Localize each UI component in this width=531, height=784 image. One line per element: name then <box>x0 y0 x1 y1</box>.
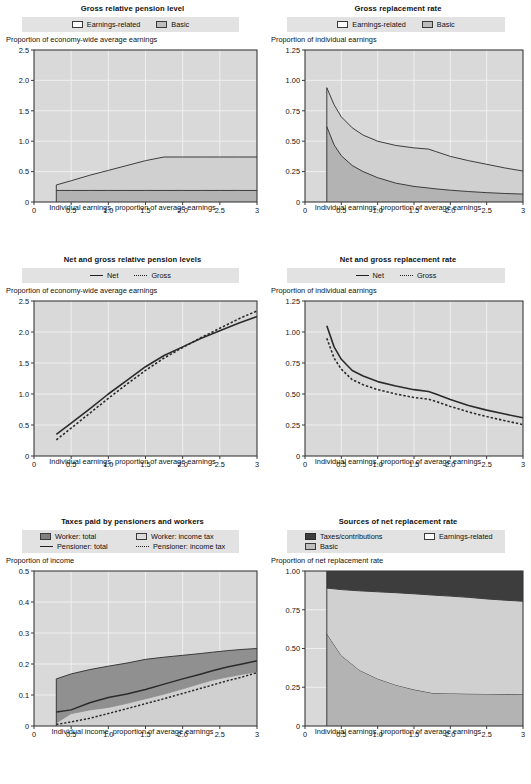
svg-text:1.25: 1.25 <box>286 46 300 55</box>
legend-label: Basic <box>171 20 189 29</box>
svg-text:0.75: 0.75 <box>286 107 300 116</box>
y-axis-label: Proportion of income <box>6 556 265 565</box>
legend-swatch-icon <box>72 21 83 28</box>
y-axis-label: Proportion of individual earnings <box>271 286 531 295</box>
chart-legend: Earnings-related Basic <box>287 17 505 32</box>
legend-item: Gross <box>400 271 436 280</box>
svg-text:0.25: 0.25 <box>286 167 300 176</box>
plot-area: 00.51.01.52.02.5300.250.500.751.00 Indiv… <box>265 566 531 744</box>
chart-canvas: 00.51.01.52.02.5300.10.20.30.40.5 <box>0 566 265 744</box>
chart-grid: Gross relative pension level Earnings-re… <box>0 0 531 784</box>
svg-text:0.75: 0.75 <box>286 606 300 615</box>
legend-label: Pensioner: income tax <box>153 542 225 551</box>
legend-label: Net <box>107 271 118 280</box>
legend-label: Net <box>373 271 384 280</box>
y-axis-label: Proportion of net replacement rate <box>271 556 531 565</box>
legend-label: Gross <box>151 271 170 280</box>
legend-item: Pensioner: total <box>40 542 122 551</box>
chart-title: Sources of net replacement rate <box>265 513 531 527</box>
panel-gross-relative-pension-level: Gross relative pension level Earnings-re… <box>0 0 265 251</box>
y-axis-label: Proportion of economy-wide average earni… <box>6 35 265 44</box>
svg-text:2.5: 2.5 <box>19 46 29 55</box>
legend-label: Taxes/contributions <box>320 532 382 541</box>
legend-item: Worker: income tax <box>136 532 214 541</box>
legend-item: Net <box>90 271 118 280</box>
legend-label: Earnings-related <box>439 532 493 541</box>
legend-item: Gross <box>134 271 170 280</box>
chart-canvas: 00.51.01.52.02.5300.250.500.751.001.25 <box>265 296 531 474</box>
legend-label: Gross <box>417 271 436 280</box>
chart-title: Gross replacement rate <box>265 0 531 14</box>
svg-text:0.5: 0.5 <box>19 567 29 576</box>
chart-title: Net and gross replacement rate <box>265 251 531 265</box>
svg-text:0.25: 0.25 <box>286 683 300 692</box>
x-axis-label: Individual earnings, proportion of avera… <box>265 457 531 466</box>
legend-line-dotted-icon <box>136 546 149 547</box>
legend-label: Basic <box>320 542 338 551</box>
svg-text:0.5: 0.5 <box>19 421 29 430</box>
svg-text:1.00: 1.00 <box>286 567 300 576</box>
legend-item: Earnings-related <box>424 532 493 541</box>
legend-swatch-icon <box>40 533 51 540</box>
panel-net-and-gross-relative-pension-levels: Net and gross relative pension levels Ne… <box>0 251 265 513</box>
svg-text:0.4: 0.4 <box>19 598 29 607</box>
figure-sheet: Gross relative pension level Earnings-re… <box>0 0 531 784</box>
svg-text:0.2: 0.2 <box>19 660 29 669</box>
svg-text:0.1: 0.1 <box>19 691 29 700</box>
legend-swatch-icon <box>136 533 147 540</box>
legend-swatch-icon <box>337 21 348 28</box>
svg-text:2.0: 2.0 <box>19 76 29 85</box>
legend-line-solid-icon <box>40 546 53 547</box>
svg-text:0.50: 0.50 <box>286 390 300 399</box>
svg-text:1.00: 1.00 <box>286 328 300 337</box>
x-axis-label: Individual earnings, proportion of avera… <box>265 727 531 736</box>
legend-line-dotted-icon <box>400 275 413 276</box>
chart-canvas: 00.51.01.52.02.5300.51.01.52.02.5 <box>0 45 265 220</box>
chart-legend: Taxes/contributions Earnings-related Bas… <box>287 530 505 553</box>
legend-line-solid-icon <box>356 275 369 276</box>
svg-text:0.50: 0.50 <box>286 644 300 653</box>
chart-legend: Net Gross <box>287 268 505 283</box>
legend-swatch-icon <box>156 21 167 28</box>
svg-text:2.0: 2.0 <box>19 328 29 337</box>
legend-item: Net <box>356 271 384 280</box>
svg-text:1.5: 1.5 <box>19 359 29 368</box>
panel-gross-replacement-rate: Gross replacement rate Earnings-related … <box>265 0 531 251</box>
legend-item: Pensioner: income tax <box>136 542 225 551</box>
svg-text:1.0: 1.0 <box>19 137 29 146</box>
chart-title: Taxes paid by pensioners and workers <box>0 513 265 527</box>
plot-area: 00.51.01.52.02.5300.250.500.751.001.25 I… <box>265 45 531 220</box>
legend-line-dotted-icon <box>134 275 147 276</box>
legend-label: Earnings-related <box>352 20 406 29</box>
legend-swatch-icon <box>305 543 316 550</box>
chart-canvas: 00.51.01.52.02.5300.250.500.751.001.25 <box>265 45 531 220</box>
svg-text:0.75: 0.75 <box>286 359 300 368</box>
x-axis-label: Individual earnings, proportion of avera… <box>0 457 265 466</box>
chart-canvas: 00.51.01.52.02.5300.51.01.52.02.5 <box>0 296 265 474</box>
chart-legend: Earnings-related Basic <box>22 17 239 32</box>
chart-title: Net and gross relative pension levels <box>0 251 265 265</box>
panel-net-and-gross-replacement-rate: Net and gross replacement rate Net Gross… <box>265 251 531 513</box>
legend-label: Worker: total <box>55 532 96 541</box>
plot-area: 00.51.01.52.02.5300.51.01.52.02.5 Indivi… <box>0 45 265 220</box>
chart-legend: Worker: total Worker: income tax Pension… <box>22 530 239 553</box>
svg-text:1.5: 1.5 <box>19 107 29 116</box>
legend-item: Earnings-related <box>337 20 406 29</box>
svg-text:2.5: 2.5 <box>19 297 29 306</box>
legend-label: Basic <box>437 20 455 29</box>
legend-item: Basic <box>422 20 455 29</box>
chart-canvas: 00.51.01.52.02.5300.250.500.751.00 <box>265 566 531 744</box>
legend-swatch-icon <box>305 533 316 540</box>
svg-text:0.50: 0.50 <box>286 137 300 146</box>
legend-item: Basic <box>305 542 410 551</box>
plot-area: 00.51.01.52.02.5300.10.20.30.40.5 Indivi… <box>0 566 265 744</box>
legend-item: Taxes/contributions <box>305 532 410 541</box>
legend-item: Basic <box>156 20 189 29</box>
x-axis-label: Individual earnings, proportion of avera… <box>0 203 265 212</box>
x-axis-label: Individual income, proportion of average… <box>0 727 265 736</box>
plot-area: 00.51.01.52.02.5300.250.500.751.001.25 I… <box>265 296 531 474</box>
legend-item: Worker: total <box>40 532 122 541</box>
legend-label: Pensioner: total <box>57 542 108 551</box>
legend-swatch-icon <box>424 533 435 540</box>
svg-text:0.3: 0.3 <box>19 629 29 638</box>
